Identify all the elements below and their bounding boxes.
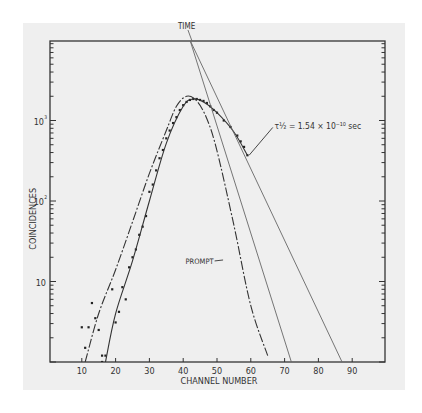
x-tick-label: 90 — [347, 366, 357, 376]
data-point — [111, 288, 113, 290]
data-point — [98, 329, 100, 331]
x-tick-label: 50 — [212, 366, 222, 376]
data-point — [81, 326, 83, 328]
data-point — [118, 311, 120, 313]
data-point — [101, 361, 103, 363]
data-point — [84, 347, 86, 349]
data-point — [101, 355, 103, 357]
x-tick-label: 70 — [279, 366, 289, 376]
prompt-annotation: PROMPT — [186, 257, 215, 266]
data-point — [155, 169, 157, 171]
data-point — [165, 137, 167, 139]
tau-half-annotation: τ½ = 1.54 × 10⁻¹⁰ sec — [274, 121, 361, 131]
data-point — [94, 317, 96, 319]
time-annotation: TIME — [177, 22, 196, 31]
prompt-curve — [85, 96, 268, 362]
data-point — [87, 326, 89, 328]
x-tick-label: 10 — [77, 366, 87, 376]
x-tick-label: 40 — [178, 366, 188, 376]
data-point — [91, 302, 93, 304]
data-point — [115, 321, 117, 323]
prompt-slope-line-curve — [190, 40, 291, 362]
x-tick-label: 80 — [313, 366, 323, 376]
time-line-top — [188, 30, 192, 41]
x-axis-label: CHANNEL NUMBER — [181, 376, 258, 386]
decay-curve-chart: 10203040506070809010102103CHANNEL NUMBER… — [0, 0, 422, 413]
x-tick-label: 20 — [110, 366, 120, 376]
plot-area — [81, 40, 342, 363]
time-slope-line--curve — [190, 40, 342, 362]
y-tick-label-exponent: 2 — [44, 194, 47, 200]
data-point — [148, 191, 150, 193]
prompt-leader-line — [215, 260, 223, 261]
y-axis-label: COINCIDENCES — [28, 188, 38, 250]
data-point — [125, 298, 127, 300]
y-tick-label: 10 — [34, 117, 44, 127]
x-tick-label: 60 — [246, 366, 256, 376]
fit-delayed--curve — [105, 99, 247, 362]
y-tick-label-exponent: 3 — [44, 114, 47, 120]
tau-leader-line — [249, 127, 273, 155]
plot-frame — [50, 41, 385, 362]
data-point — [158, 157, 160, 159]
x-tick-label: 30 — [144, 366, 154, 376]
y-tick-label: 10 — [36, 278, 46, 288]
